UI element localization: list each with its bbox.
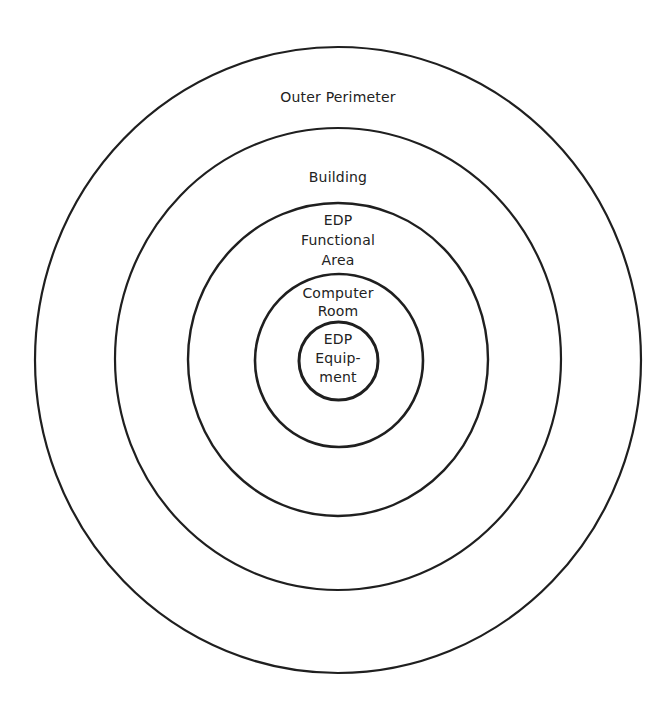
label-line: ment <box>315 368 361 387</box>
label-line: Functional <box>301 230 375 250</box>
label-line: EDP <box>301 210 375 230</box>
label-line: EDP <box>315 330 361 349</box>
label-line: Outer Perimeter <box>280 88 396 106</box>
label-line: Equip- <box>315 349 361 368</box>
label-outer-perimeter: Outer Perimeter <box>280 88 396 106</box>
label-computer-room: Computer Room <box>302 284 373 320</box>
label-line: Computer <box>302 284 373 302</box>
security-perimeter-diagram: Outer Perimeter Building EDP Functional … <box>0 0 660 707</box>
label-line: Area <box>301 250 375 270</box>
label-edp-functional-area: EDP Functional Area <box>301 210 375 270</box>
label-building: Building <box>309 168 367 186</box>
label-line: Building <box>309 168 367 186</box>
label-line: Room <box>302 302 373 320</box>
label-edp-equipment: EDP Equip- ment <box>315 330 361 387</box>
